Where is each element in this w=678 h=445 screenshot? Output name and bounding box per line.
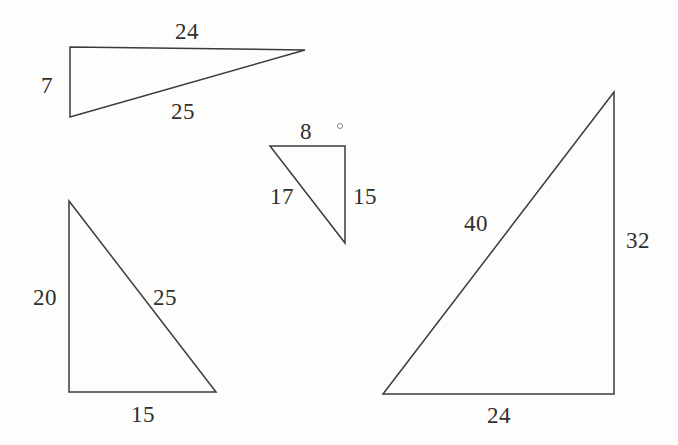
triangle-right [383, 92, 614, 394]
triangle-bottom-left [69, 201, 216, 392]
geometry-figure: 7 24 25 8 17 15 20 25 15 40 32 24 [0, 0, 678, 445]
side-label-40: 40 [464, 212, 488, 235]
side-label-7: 7 [41, 74, 53, 97]
side-label-8: 8 [300, 120, 312, 143]
side-label-24: 24 [175, 20, 199, 43]
side-label-32: 32 [626, 229, 650, 252]
side-label-25: 25 [171, 100, 195, 123]
triangles-canvas [0, 0, 678, 445]
scan-speck [337, 123, 343, 129]
side-label-17: 17 [270, 185, 294, 208]
side-label-25b: 25 [153, 286, 177, 309]
side-label-15: 15 [353, 185, 377, 208]
side-label-24b: 24 [487, 404, 511, 427]
side-label-20: 20 [33, 286, 57, 309]
side-label-15b: 15 [131, 403, 155, 426]
